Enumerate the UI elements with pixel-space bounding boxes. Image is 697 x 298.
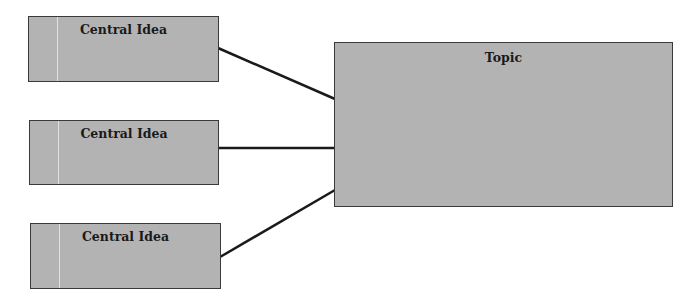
- topic-box: Topic: [334, 42, 673, 207]
- central-idea-label-3: Central Idea: [31, 229, 220, 244]
- central-idea-box-1: Central Idea: [28, 16, 219, 82]
- central-idea-label-2: Central Idea: [30, 126, 218, 141]
- central-idea-box-3: Central Idea: [30, 223, 221, 289]
- central-idea-label-1: Central Idea: [29, 22, 218, 37]
- topic-label: Topic: [335, 50, 672, 65]
- connector-line-3: [220, 190, 335, 257]
- concept-map-diagram: Central Idea Central Idea Central Idea T…: [0, 0, 697, 298]
- central-idea-box-2: Central Idea: [29, 120, 219, 185]
- connector-line-1: [218, 48, 335, 99]
